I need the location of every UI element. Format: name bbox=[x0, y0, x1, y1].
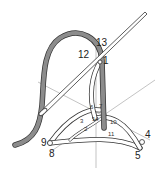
label-2: 2 bbox=[84, 126, 87, 132]
label-12: 12 bbox=[78, 50, 89, 60]
stitch-diagram bbox=[0, 0, 165, 172]
label-9: 9 bbox=[41, 138, 47, 148]
label-11: 11 bbox=[108, 131, 114, 137]
knot-right bbox=[140, 140, 145, 145]
knot-top bbox=[98, 60, 102, 64]
label-13: 13 bbox=[96, 38, 107, 48]
label-3: 3 bbox=[80, 118, 83, 124]
stitch-loops bbox=[50, 62, 140, 148]
label-7: 7 bbox=[99, 103, 102, 109]
label-1: 1 bbox=[103, 56, 109, 66]
label-5: 5 bbox=[135, 151, 141, 161]
label-6: 6 bbox=[90, 104, 93, 110]
knot-left bbox=[48, 141, 53, 146]
label-8: 8 bbox=[49, 149, 55, 159]
label-10: 10 bbox=[110, 119, 117, 125]
label-4: 4 bbox=[145, 130, 151, 140]
label-14: 14 bbox=[92, 116, 99, 122]
